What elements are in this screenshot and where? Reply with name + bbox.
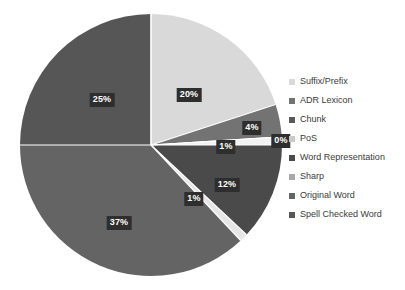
legend-item[interactable]: Original Word	[289, 186, 403, 205]
legend-item[interactable]: PoS	[289, 129, 403, 148]
legend-item[interactable]: ADR Lexicon	[289, 91, 403, 110]
legend-swatch-icon	[289, 212, 295, 218]
pie-data-label: 1%	[216, 140, 235, 154]
pie-data-label: 37%	[107, 216, 132, 230]
legend-item-label: Original Word	[300, 190, 355, 201]
legend-item[interactable]: Suffix/Prefix	[289, 72, 403, 91]
pie-data-label: 1%	[184, 192, 203, 206]
chart-legend: Suffix/PrefixADR LexiconChunkPoSWord Rep…	[289, 72, 403, 224]
legend-swatch-icon	[289, 155, 295, 161]
legend-item-label: Sharp	[300, 171, 324, 182]
legend-item-label: ADR Lexicon	[300, 95, 353, 106]
pie-chart: 20%4%0%1%12%1%37%25% Suffix/PrefixADR Le…	[0, 0, 405, 290]
legend-item-label: Word Representation	[300, 152, 385, 163]
legend-item-label: Chunk	[300, 114, 326, 125]
legend-item[interactable]: Chunk	[289, 110, 403, 129]
legend-swatch-icon	[289, 117, 295, 123]
pie-data-label: 20%	[177, 88, 202, 102]
pie-slice[interactable]	[20, 14, 151, 145]
legend-swatch-icon	[289, 174, 295, 180]
pie-data-label: 25%	[90, 93, 115, 107]
legend-swatch-icon	[289, 136, 295, 142]
legend-item[interactable]: Sharp	[289, 167, 403, 186]
legend-item-label: Suffix/Prefix	[300, 76, 348, 87]
legend-swatch-icon	[289, 79, 295, 85]
pie-plot-area: 20%4%0%1%12%1%37%25%	[0, 0, 292, 290]
legend-swatch-icon	[289, 193, 295, 199]
pie-data-label: 0%	[271, 134, 290, 148]
pie-data-label: 4%	[242, 121, 261, 135]
legend-swatch-icon	[289, 98, 295, 104]
legend-item-label: PoS	[300, 133, 317, 144]
legend-item[interactable]: Word Representation	[289, 148, 403, 167]
legend-item[interactable]: Spell Checked Word	[289, 205, 403, 224]
pie-data-label: 12%	[215, 178, 240, 192]
legend-item-label: Spell Checked Word	[300, 209, 382, 220]
pie-svg	[0, 0, 292, 290]
